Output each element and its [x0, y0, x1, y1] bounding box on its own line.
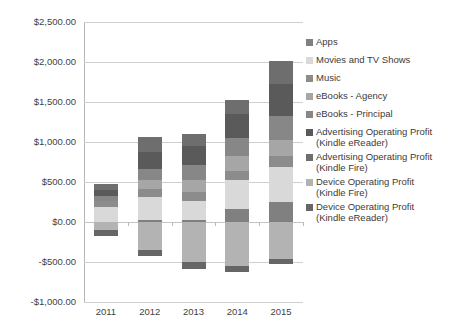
bars-layer: [84, 22, 303, 302]
bar-segment[interactable]: [269, 84, 293, 115]
legend-item[interactable]: Music: [306, 72, 468, 83]
bar-segment[interactable]: [94, 230, 118, 236]
y-tick-label: $500.00: [42, 177, 76, 187]
y-tick-label: $1,500.00: [34, 97, 76, 107]
bar-segment[interactable]: [269, 259, 293, 265]
legend-swatch-icon: [306, 154, 313, 161]
legend-label: eBooks - Agency: [316, 90, 387, 101]
legend-label: Movies and TV Shows: [316, 54, 410, 65]
bar-segment[interactable]: [94, 190, 118, 197]
y-tick-label: $2,500.00: [34, 17, 76, 27]
y-tick-label: -$1,000.00: [31, 297, 76, 307]
y-axis: $2,500.00$2,000.00$1,500.00$1,000.00$500…: [0, 0, 82, 335]
legend-swatch-icon: [306, 39, 313, 46]
bar-segment[interactable]: [269, 61, 293, 84]
legend-item[interactable]: Device Operating Profit (Kindle Fire): [306, 176, 468, 198]
legend-swatch-icon: [306, 111, 313, 118]
bar-segment[interactable]: [138, 222, 162, 250]
bar-segment[interactable]: [225, 180, 249, 209]
y-tick-label: $2,000.00: [34, 57, 76, 67]
bar-column[interactable]: [138, 22, 162, 302]
bar-segment[interactable]: [182, 201, 206, 219]
bar-column[interactable]: [94, 22, 118, 302]
stacked-bar-chart: $2,500.00$2,000.00$1,500.00$1,000.00$500…: [0, 0, 471, 335]
bar-segment[interactable]: [138, 137, 162, 151]
bar-segment[interactable]: [269, 202, 293, 222]
legend-label: Advertising Operating Profit (Kindle Fir…: [316, 151, 432, 173]
legend-swatch-icon: [306, 93, 313, 100]
bar-segment[interactable]: [138, 152, 162, 169]
x-tick-mark: [303, 222, 304, 226]
legend-swatch-icon: [306, 204, 313, 211]
bar-segment[interactable]: [182, 222, 206, 262]
bar-segment[interactable]: [94, 201, 118, 207]
x-axis: 20112012201320142015: [84, 306, 303, 322]
bar-segment[interactable]: [225, 114, 249, 138]
legend-item[interactable]: Device Operating Profit (Kindle eReader): [306, 201, 468, 223]
bar-segment[interactable]: [94, 222, 118, 230]
bar-segment[interactable]: [94, 196, 118, 201]
legend-label: eBooks - Principal: [316, 108, 393, 119]
bar-segment[interactable]: [269, 156, 293, 166]
bar-column[interactable]: [182, 22, 206, 302]
bar-segment[interactable]: [225, 209, 249, 222]
legend-label: Apps: [316, 36, 338, 47]
bar-segment[interactable]: [138, 189, 162, 197]
y-tick-label: -$500.00: [38, 257, 76, 267]
bar-segment[interactable]: [225, 156, 249, 170]
bar-segment[interactable]: [225, 222, 249, 266]
bar-segment[interactable]: [138, 169, 162, 180]
bar-segment[interactable]: [182, 134, 206, 146]
legend-item[interactable]: Advertising Operating Profit (Kindle eRe…: [306, 126, 468, 148]
legend-label: Music: [316, 72, 341, 83]
legend-label: Advertising Operating Profit (Kindle eRe…: [316, 126, 432, 148]
bar-segment[interactable]: [182, 165, 206, 180]
legend-item[interactable]: eBooks - Principal: [306, 108, 468, 119]
bar-segment[interactable]: [182, 146, 206, 166]
bar-segment[interactable]: [269, 140, 293, 157]
bar-column[interactable]: [269, 22, 293, 302]
bar-segment[interactable]: [138, 197, 162, 220]
bar-segment[interactable]: [225, 171, 249, 181]
x-tick-label: 2012: [128, 306, 172, 318]
legend-item[interactable]: Advertising Operating Profit (Kindle Fir…: [306, 151, 468, 173]
legend-item[interactable]: eBooks - Agency: [306, 90, 468, 101]
bar-segment[interactable]: [94, 207, 118, 222]
bar-segment[interactable]: [138, 180, 162, 189]
legend-swatch-icon: [306, 75, 313, 82]
legend-item[interactable]: Apps: [306, 36, 468, 47]
x-tick-label: 2013: [172, 306, 216, 318]
x-tick-label: 2015: [259, 306, 303, 318]
x-tick-label: 2011: [84, 306, 128, 318]
bar-segment[interactable]: [225, 100, 249, 114]
bar-segment[interactable]: [182, 180, 206, 192]
bar-segment[interactable]: [138, 250, 162, 256]
bar-segment[interactable]: [182, 192, 206, 201]
legend-swatch-icon: [306, 179, 313, 186]
bar-segment[interactable]: [225, 138, 249, 156]
legend-swatch-icon: [306, 129, 313, 136]
bar-segment[interactable]: [269, 222, 293, 259]
bar-segment[interactable]: [269, 167, 293, 202]
legend-item[interactable]: Movies and TV Shows: [306, 54, 468, 65]
y-tick-label: $1,000.00: [34, 137, 76, 147]
chart-legend: AppsMovies and TV ShowsMusiceBooks - Age…: [306, 36, 468, 226]
bar-column[interactable]: [225, 22, 249, 302]
legend-label: Device Operating Profit (Kindle Fire): [316, 176, 414, 198]
bar-segment[interactable]: [182, 262, 206, 269]
gridline: [84, 302, 303, 303]
x-tick-label: 2014: [215, 306, 259, 318]
plot-area: [84, 22, 303, 302]
legend-label: Device Operating Profit (Kindle eReader): [316, 201, 414, 223]
bar-segment[interactable]: [225, 266, 249, 272]
bar-segment[interactable]: [269, 116, 293, 140]
legend-swatch-icon: [306, 57, 313, 64]
y-tick-label: $0.00: [52, 217, 76, 227]
bar-segment[interactable]: [94, 184, 118, 190]
